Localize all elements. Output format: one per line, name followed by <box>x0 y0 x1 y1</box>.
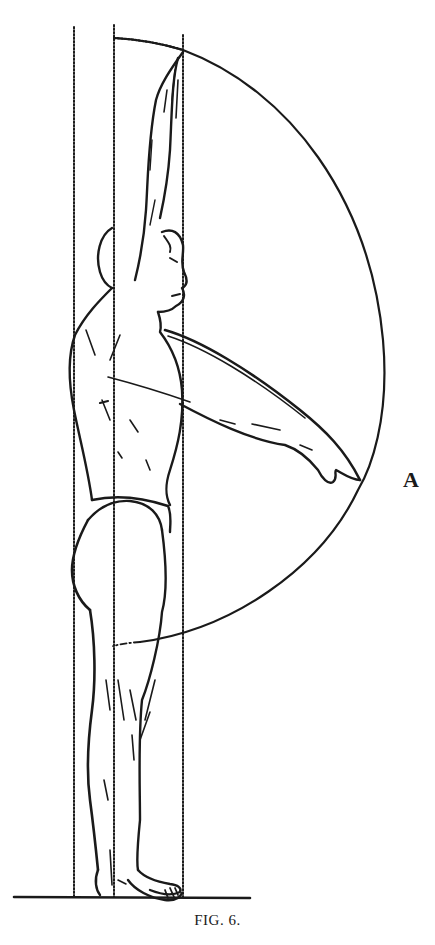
extended-arm <box>165 330 360 483</box>
shoulder-reference-line <box>108 377 190 402</box>
torso <box>70 288 183 505</box>
point-a-label: A <box>403 467 419 493</box>
arm-sweep-arc-hidden <box>113 642 140 646</box>
arc-top-dotted <box>114 38 183 50</box>
ground-line <box>14 897 250 898</box>
figure-caption: FIG. 6. <box>0 912 435 929</box>
legs <box>88 530 166 870</box>
anatomical-figure-illustration <box>0 0 435 945</box>
feet <box>96 850 182 900</box>
raised-arm <box>135 52 183 280</box>
trunks <box>72 497 171 610</box>
arm-sweep-arc <box>114 38 384 642</box>
